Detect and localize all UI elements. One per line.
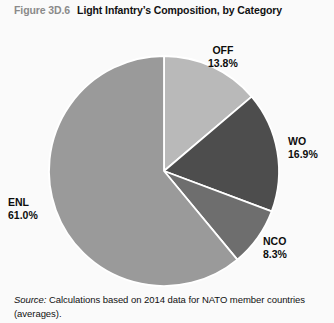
pie-label-off-name: OFF bbox=[208, 44, 238, 57]
source-note: Source: Calculations based on 2014 data … bbox=[14, 293, 326, 320]
source-text: Calculations based on 2014 data for NATO… bbox=[14, 294, 305, 319]
pie-label-off-value: 13.8% bbox=[208, 57, 238, 70]
pie-label-wo-name: WO bbox=[288, 135, 318, 148]
pie-label-enl: ENL 61.0% bbox=[8, 196, 38, 222]
pie-slice-group bbox=[49, 56, 279, 286]
pie-label-wo: WO 16.9% bbox=[288, 135, 318, 161]
pie-label-off: OFF 13.8% bbox=[208, 44, 238, 70]
pie-label-enl-name: ENL bbox=[8, 196, 38, 209]
pie-label-wo-value: 16.9% bbox=[288, 148, 318, 161]
pie-label-nco: NCO 8.3% bbox=[263, 235, 287, 261]
source-label: Source: bbox=[14, 294, 46, 305]
pie-chart: OFF 13.8% WO 16.9% NCO 8.3% ENL 61.0% bbox=[0, 0, 334, 295]
pie-label-enl-value: 61.0% bbox=[8, 209, 38, 222]
pie-label-nco-name: NCO bbox=[263, 235, 287, 248]
pie-label-nco-value: 8.3% bbox=[263, 248, 287, 261]
